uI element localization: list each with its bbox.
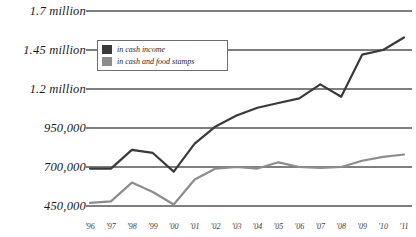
x-axis-tick-label: '05: [274, 222, 284, 231]
x-axis-tick-label: '10: [378, 222, 388, 231]
x-axis-tick-label: '96: [85, 222, 95, 231]
chart-legend: in cash incomein cash and food stamps: [97, 40, 228, 71]
legend-item: in cash income: [102, 44, 223, 55]
legend-label: in cash income: [117, 45, 165, 54]
x-axis-tick-label: '00: [169, 222, 179, 231]
x-axis-tick-label: '06: [294, 222, 304, 231]
legend-label: in cash and food stamps: [117, 57, 194, 66]
chart-container: 1.7 million1.45 million1.2 million950,00…: [0, 0, 416, 237]
x-axis-tick-label: '07: [315, 222, 325, 231]
x-axis-tick-label: '02: [211, 222, 221, 231]
x-axis-tick-label: '08: [336, 222, 346, 231]
x-axis-tick-label: '09: [357, 222, 367, 231]
legend-color-swatch-icon: [102, 45, 112, 54]
x-axis-tick-label: '01: [190, 222, 200, 231]
x-axis-tick-label: '03: [232, 222, 242, 231]
x-axis-labels: '96'97'98'99'00'01'02'03'04'05'06'07'08'…: [0, 0, 416, 237]
legend-color-swatch-icon: [102, 57, 112, 66]
x-axis-tick-label: '98: [127, 222, 137, 231]
legend-item: in cash and food stamps: [102, 56, 223, 67]
x-axis-tick-label: '97: [106, 222, 116, 231]
x-axis-tick-label: '11: [399, 222, 408, 231]
x-axis-tick-label: '99: [148, 222, 158, 231]
x-axis-tick-label: '04: [253, 222, 263, 231]
